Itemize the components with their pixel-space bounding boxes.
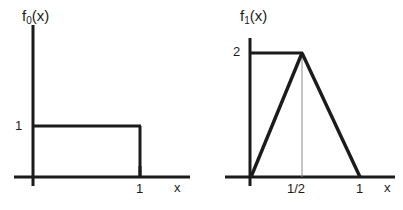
function-label-f1: f1(x)	[240, 8, 267, 23]
function-label-suffix-f1: (x)	[250, 7, 268, 24]
function-label-subscript-f1: 1	[244, 15, 250, 26]
function-label-subscript-f0: 0	[26, 15, 32, 26]
panel-f0: f0(x) 1 1 x	[0, 0, 201, 210]
y-tick-label-1-f0: 1	[15, 119, 22, 132]
plot-f0	[0, 0, 201, 210]
x-tick-label-half-f1: 1/2	[287, 182, 305, 195]
panel-f1: f1(x) 2 1/2 1 x	[201, 0, 403, 210]
density-rising-edge-f1	[251, 53, 302, 177]
x-axis-name-f0: x	[174, 181, 181, 194]
x-tick-label-1-f0: 1	[136, 182, 143, 195]
x-axis-name-f1: x	[384, 181, 391, 194]
y-tick-label-2-f1: 2	[233, 45, 240, 58]
density-falling-edge-f1	[302, 53, 360, 177]
figure-canvas: f0(x) 1 1 x f1(x) 2 1/2 1 x	[0, 0, 403, 210]
function-label-f0: f0(x)	[22, 8, 49, 23]
x-tick-label-1-f1: 1	[356, 182, 363, 195]
plot-f1	[201, 0, 403, 210]
function-label-suffix-f0: (x)	[32, 7, 50, 24]
